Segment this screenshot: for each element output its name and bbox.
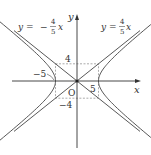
tick-label-x-pos: 5 [90,84,96,94]
svg-text:4: 4 [51,18,56,26]
y-axis-label: y [67,11,74,22]
svg-text:y =: y = [100,22,117,32]
tick-label-x-neg: −5 [33,69,47,79]
asymptote-label-positive: y = 4 5 x [100,18,131,36]
tick-label-y-neg: −4 [59,100,73,110]
x-axis-label: x [134,84,140,95]
svg-text:5: 5 [51,28,55,36]
origin-point [75,79,78,82]
svg-text:−: − [40,22,48,32]
svg-text:5: 5 [120,28,124,36]
y-axis-arrow-icon [75,14,79,20]
origin-label: O [68,88,75,98]
asymptote-label-negative: y = − 4 5 x [17,18,63,36]
svg-text:x: x [126,22,131,32]
svg-text:4: 4 [120,18,125,26]
tick-label-y-pos: 4 [65,54,71,64]
svg-text:y =: y = [17,22,34,32]
hyperbola-diagram: x y O 4 −4 5 −5 y = 4 5 x y = − 4 5 x [0,0,151,155]
diagram-canvas: x y O 4 −4 5 −5 y = 4 5 x y = − 4 5 x [0,0,151,155]
svg-text:x: x [58,22,63,32]
x-axis-arrow-icon [135,79,141,83]
pointer-arrow [47,74,54,80]
